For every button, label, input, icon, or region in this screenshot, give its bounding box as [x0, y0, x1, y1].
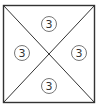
triangle-bottom-label: 3	[42, 79, 57, 94]
triangle-top-label: 3	[42, 17, 57, 32]
svg-text:3: 3	[46, 18, 53, 31]
svg-text:3: 3	[76, 47, 83, 60]
triangle-left-label: 3	[15, 46, 30, 61]
svg-text:3: 3	[46, 80, 53, 93]
triangle-right-label: 3	[72, 46, 87, 61]
svg-text:3: 3	[19, 47, 26, 60]
diagram-canvas: 3 3 3 3	[0, 0, 97, 110]
